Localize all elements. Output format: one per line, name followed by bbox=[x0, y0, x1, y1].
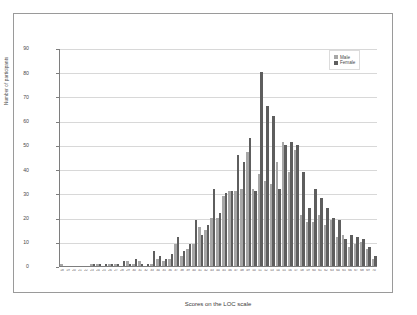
bar-chart: Number of participants 90807060504030201… bbox=[13, 13, 391, 291]
y-axis-tick-label: 80 bbox=[3, 71, 29, 76]
legend-label-female: Female bbox=[340, 60, 355, 65]
x-axis-title: Scores on the LOC scale bbox=[59, 301, 377, 308]
x-axis-tick-labels: 1819202122232425262728293031323334353637… bbox=[59, 269, 377, 279]
y-axis-tick-label: 0 bbox=[3, 264, 29, 269]
legend-item-male: Male bbox=[334, 55, 355, 60]
y-axis-tick-mark bbox=[56, 97, 59, 98]
legend-item-female: Female bbox=[334, 60, 355, 65]
legend-swatch-female-icon bbox=[334, 61, 338, 65]
y-axis-tick-mark bbox=[56, 219, 59, 220]
y-axis-tick-mark bbox=[56, 194, 59, 195]
plot-area bbox=[59, 49, 377, 267]
legend-swatch-male-icon bbox=[334, 55, 338, 59]
y-axis-tick-label: 20 bbox=[3, 216, 29, 221]
y-axis-tick-label: 70 bbox=[3, 95, 29, 100]
legend-label-male: Male bbox=[340, 55, 350, 60]
x-axis-tick-label: 70 bbox=[371, 269, 377, 279]
y-axis-tick-mark bbox=[56, 146, 59, 147]
y-axis-tick-label: 30 bbox=[3, 192, 29, 197]
y-axis-title: Number of participants bbox=[4, 0, 9, 105]
figure: Number of participants 90807060504030201… bbox=[0, 0, 417, 315]
y-axis-tick-mark bbox=[56, 170, 59, 171]
bar-series-container bbox=[60, 49, 377, 266]
bar-female bbox=[374, 256, 377, 266]
y-axis-tick-label: 10 bbox=[3, 240, 29, 245]
bar-male bbox=[60, 264, 63, 266]
bar-group bbox=[371, 49, 377, 266]
y-axis-tick-label: 60 bbox=[3, 119, 29, 124]
y-axis-tick-mark bbox=[56, 49, 59, 50]
y-axis-tick-label: 50 bbox=[3, 143, 29, 148]
y-axis-tick-mark bbox=[56, 267, 59, 268]
y-axis-tick-label: 90 bbox=[3, 46, 29, 51]
y-axis-tick-label: 40 bbox=[3, 168, 29, 173]
legend: Male Female bbox=[329, 50, 360, 70]
y-axis-tick-mark bbox=[56, 122, 59, 123]
y-axis-tick-mark bbox=[56, 243, 59, 244]
y-axis-tick-mark bbox=[56, 73, 59, 74]
